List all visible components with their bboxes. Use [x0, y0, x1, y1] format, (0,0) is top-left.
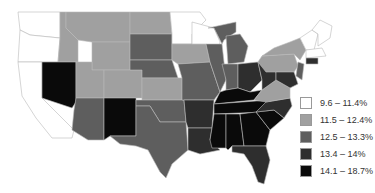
legend-swatch-3 [300, 131, 312, 143]
state-south-dakota [130, 34, 172, 60]
state-pennsylvania [258, 54, 298, 72]
state-arizona [72, 98, 104, 140]
state-new-mexico [104, 98, 136, 140]
state-ohio [238, 62, 262, 92]
legend-swatch-4 [300, 148, 312, 160]
state-nevada [42, 62, 76, 108]
legend-swatch-1 [300, 97, 312, 109]
map-legend: 9.6 – 11.4% 11.5 – 12.4% 12.5 – 13.3% 13… [300, 94, 373, 179]
legend-label: 12.5 – 13.3% [320, 132, 373, 142]
legend-swatch-5 [300, 165, 312, 177]
state-connecticut-ri [306, 58, 318, 64]
state-massachusetts [306, 48, 326, 58]
legend-label: 14.1 – 18.7% [320, 166, 373, 176]
legend-label: 11.5 – 12.4% [320, 115, 372, 125]
legend-item: 13.4 – 14% [300, 145, 373, 162]
state-arkansas [184, 100, 214, 128]
legend-label: 13.4 – 14% [320, 149, 366, 159]
state-kansas [142, 78, 182, 100]
state-wyoming [92, 42, 130, 70]
state-colorado [104, 70, 142, 98]
legend-item: 9.6 – 11.4% [300, 94, 373, 111]
legend-label: 9.6 – 11.4% [320, 98, 367, 108]
legend-item: 11.5 – 12.4% [300, 111, 373, 128]
state-montana [66, 12, 130, 42]
state-michigan-lower [226, 34, 248, 64]
state-iowa [172, 44, 210, 64]
state-north-dakota [130, 12, 172, 34]
legend-item: 14.1 – 18.7% [300, 162, 373, 179]
state-florida [232, 146, 270, 184]
legend-swatch-2 [300, 114, 312, 126]
legend-item: 12.5 – 13.3% [300, 128, 373, 145]
